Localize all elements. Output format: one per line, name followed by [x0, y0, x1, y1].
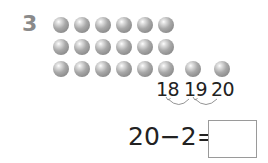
backward-arrows-icon [155, 96, 225, 110]
question-number: 3 [22, 13, 37, 35]
ball [158, 17, 174, 33]
ball [116, 17, 132, 33]
ball [95, 17, 111, 33]
ball [53, 17, 69, 33]
ball-19 [185, 61, 201, 77]
ball [95, 39, 111, 55]
ball [74, 17, 90, 33]
ball [74, 61, 90, 77]
ball [158, 61, 174, 77]
ball [74, 39, 90, 55]
ball [137, 39, 153, 55]
ball [116, 39, 132, 55]
ball [137, 61, 153, 77]
ball [53, 61, 69, 77]
ball [53, 39, 69, 55]
ball [158, 39, 174, 55]
ball-20 [214, 61, 230, 77]
answer-box[interactable] [208, 120, 257, 158]
equation: 20−2= [128, 124, 218, 149]
ball [137, 17, 153, 33]
ball [116, 61, 132, 77]
ball [95, 61, 111, 77]
